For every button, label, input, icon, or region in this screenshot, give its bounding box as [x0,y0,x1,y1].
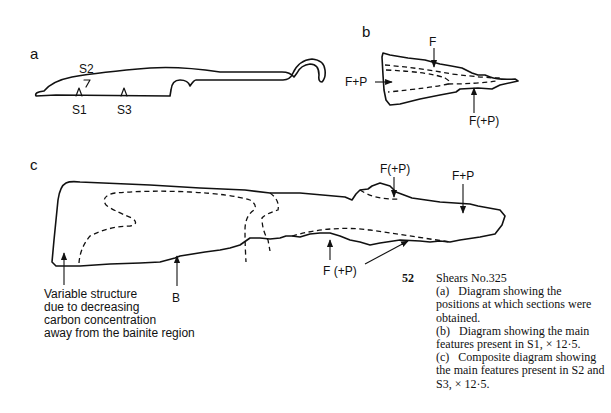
s3-label: S3 [117,103,132,117]
b-label-f-paren-p: F(+P) [469,114,499,128]
c-label-top-f-paren-p: F(+P) [380,162,410,176]
figure-number: 52 [402,272,436,285]
c-label-top-fp: F+P [452,169,474,183]
figure-title: Shears No.325 [436,271,507,285]
s2-marker [84,80,90,87]
section-s1-outline [382,53,518,105]
b-label-f: F [429,35,436,49]
panel-b: b F F+P F(+P) [345,23,518,128]
caption-item-b: (b) Diagram showing the main features pr… [402,325,607,351]
panel-b-letter: b [362,23,370,40]
c-label-bottom-f-paren-p: F (+P) [323,264,357,278]
s2-label: S2 [79,62,94,76]
composite-section-outline [52,182,505,266]
panel-a-letter: a [30,45,39,62]
caption-item-a: (a) Diagram showing the positions at whi… [402,285,607,325]
figure-caption: 52Shears No.325 (a) Diagram showing the … [402,272,607,391]
panel-c-letter: c [30,156,38,173]
panel-a: a S2 S1 S3 [30,45,325,117]
s1-label: S1 [72,103,87,117]
caption-item-c: (c) Composite diagram showing the main f… [402,351,607,391]
b-label-fp: F+P [345,75,367,89]
variable-structure-note: Variable structure due to decreasing car… [44,288,195,340]
